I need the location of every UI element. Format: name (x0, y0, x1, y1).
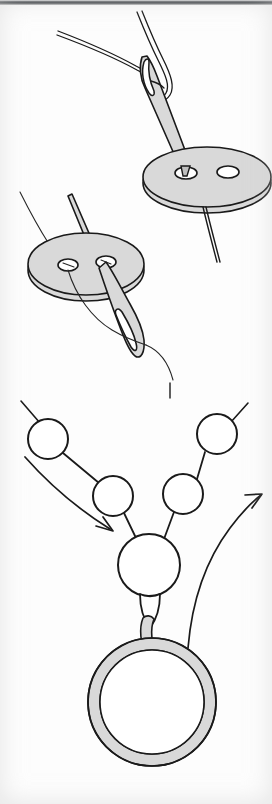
bead-inner-right (163, 474, 203, 514)
button-upper-face (143, 147, 271, 207)
sewing-diagram: .ink { stroke:#1a1a1a; fill:none; stroke… (0, 0, 272, 804)
illustration-page: .ink { stroke:#1a1a1a; fill:none; stroke… (0, 0, 272, 804)
bead-outer-left (28, 419, 68, 459)
bead-center (118, 534, 180, 596)
button-upper-hole-right (217, 166, 239, 178)
bead-outer-right (197, 414, 237, 454)
button-lower-face (28, 233, 144, 295)
ring-inner-edge (100, 650, 204, 754)
bead-inner-left (93, 476, 133, 516)
